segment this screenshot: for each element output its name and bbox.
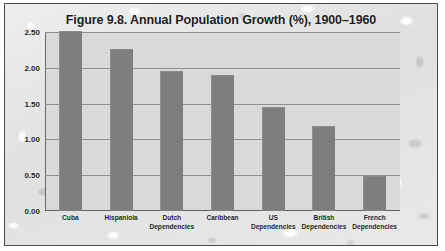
y-axis-tick-label: 1.00 [6,135,40,144]
figure-frame: Figure 9.8. Annual Population Growth (%)… [4,3,438,246]
x-axis-category-label: Caribbean [197,214,248,231]
x-axis-category-label: BritishDependencies [299,214,350,231]
y-axis-tick-label: 0.00 [6,207,40,216]
bar-slot [197,32,248,211]
bar[interactable] [312,126,335,211]
y-axis-tick-label: 2.50 [6,28,40,37]
bar-slot [146,32,197,211]
x-axis-category-label: Cuba [45,214,96,231]
y-axis-tick-label: 1.50 [6,99,40,108]
bar[interactable] [110,49,133,211]
chart-title: Figure 9.8. Annual Population Growth (%)… [5,13,437,27]
bar-slot [45,32,96,211]
bar-slot [248,32,299,211]
bar[interactable] [262,107,285,211]
bar[interactable] [211,75,234,211]
y-axis-tick-label: 0.50 [6,171,40,180]
y-axis-tick-label: 2.00 [6,63,40,72]
x-axis-category-label: FrenchDependencies [349,214,400,231]
bar[interactable] [160,71,183,211]
bar[interactable] [59,31,82,211]
bar-slot [96,32,147,211]
bar-slot [299,32,350,211]
x-axis-category-label: DutchDependencies [146,214,197,231]
x-axis-category-label: US Dependencies [248,214,299,231]
x-axis-category-labels: CubaHispaniolaDutchDependenciesCaribbean… [45,214,400,231]
bar[interactable] [363,176,386,211]
plot-area [45,32,400,211]
bar-slot [349,32,400,211]
x-axis-category-label: Hispaniola [96,214,147,231]
bars-group [45,32,400,211]
